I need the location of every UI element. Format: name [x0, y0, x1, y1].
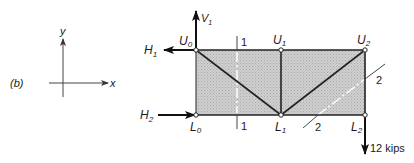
x-axis-label: x: [109, 77, 116, 89]
y-axis-label: y: [59, 25, 67, 37]
panel-label: (b): [10, 77, 24, 89]
force-V1-label: V1: [201, 12, 212, 26]
node-L1: [279, 113, 283, 117]
section-1-label-top: 1: [241, 36, 247, 48]
node-label-U0: U0: [179, 34, 193, 49]
node-L0: [194, 113, 198, 117]
node-U1: [279, 48, 283, 52]
coordinate-axes: y x: [49, 25, 116, 97]
force-H2-label: H2: [140, 108, 154, 124]
section-2-label-top: 2: [376, 74, 382, 86]
section-2-label-bottom: 2: [315, 121, 321, 133]
load-label: 12 kips: [370, 142, 405, 154]
node-label-L0: L0: [190, 120, 202, 135]
section-1-label-bottom: 1: [241, 120, 247, 132]
node-label-U2: U2: [357, 33, 371, 48]
node-label-U1: U1: [273, 33, 286, 48]
node-label-L1: L1: [275, 120, 286, 135]
force-H1-label: H1: [144, 43, 157, 59]
truss-diagram: y x (b) 1 1 2 2 V1 H1 H2 12 kips: [0, 0, 414, 163]
node-L2: [363, 113, 367, 117]
node-U0: [194, 48, 198, 52]
node-label-L2: L2: [351, 120, 363, 135]
node-U2: [363, 48, 367, 52]
